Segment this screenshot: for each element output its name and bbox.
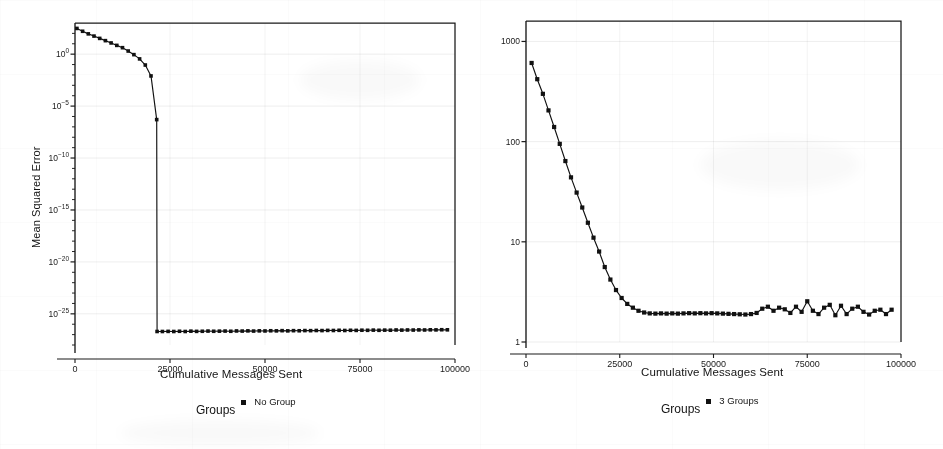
x-tick-label: 100000 bbox=[886, 359, 916, 369]
square-marker-icon bbox=[241, 400, 246, 405]
y-tick-label: 10−5 bbox=[52, 101, 69, 111]
plot-svg-left bbox=[0, 0, 471, 449]
legend-title: Groups bbox=[661, 402, 700, 416]
x-tick-label: 0 bbox=[72, 364, 77, 374]
plot-area-left bbox=[0, 0, 471, 449]
y-tick-label: 100 bbox=[56, 49, 69, 59]
legend-left: Groups No Group bbox=[196, 396, 296, 410]
legend-entry-label: 3 Groups bbox=[719, 395, 758, 406]
legend-right: Groups 3 Groups bbox=[661, 395, 758, 409]
x-tick-label: 0 bbox=[523, 359, 528, 369]
plot-area-right bbox=[471, 0, 943, 449]
x-tick-label: 75000 bbox=[347, 364, 372, 374]
y-tick-label: 10−10 bbox=[49, 153, 70, 163]
y-tick-label: 1 bbox=[515, 337, 520, 347]
y-tick-label: 10−15 bbox=[49, 205, 70, 215]
figure-root: Mean Squared Error Cumulative Messages S… bbox=[0, 0, 943, 449]
y-tick-label: 100 bbox=[506, 137, 520, 147]
x-tick-label: 75000 bbox=[795, 359, 820, 369]
y-tick-label: 10−25 bbox=[49, 309, 70, 319]
legend-title: Groups bbox=[196, 403, 235, 417]
y-tick-label: 1000 bbox=[501, 36, 520, 46]
chart-panel-left: Mean Squared Error Cumulative Messages S… bbox=[0, 0, 471, 449]
x-tick-label: 50000 bbox=[701, 359, 726, 369]
legend-entry-3-groups: 3 Groups bbox=[706, 398, 758, 409]
legend-entry-label: No Group bbox=[254, 396, 295, 407]
square-marker-icon bbox=[706, 399, 711, 404]
legend-entry-no-group: No Group bbox=[241, 399, 295, 410]
x-tick-label: 50000 bbox=[252, 364, 277, 374]
x-tick-label: 100000 bbox=[440, 364, 470, 374]
y-tick-label: 10 bbox=[511, 237, 520, 247]
chart-panel-right: Mean Squared Error Cumulative Messages S… bbox=[471, 0, 943, 449]
y-tick-label: 10−20 bbox=[49, 257, 70, 267]
plot-svg-right bbox=[471, 0, 943, 449]
y-axis-title: Mean Squared Error bbox=[30, 147, 42, 248]
x-tick-label: 25000 bbox=[157, 364, 182, 374]
x-tick-label: 25000 bbox=[607, 359, 632, 369]
